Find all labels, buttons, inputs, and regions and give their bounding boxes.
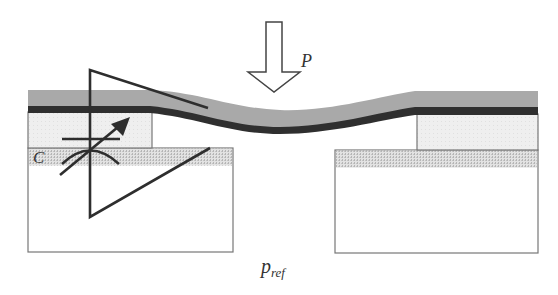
pressure-label: P — [300, 51, 312, 71]
left-substrate — [28, 148, 233, 252]
reference-pressure-symbol: p — [259, 255, 271, 278]
reference-pressure-subscript: ref — [271, 265, 287, 280]
reference-pressure-label: pref — [259, 255, 287, 280]
left-electrode-strip — [29, 149, 232, 166]
right-electrode-strip — [336, 151, 537, 168]
pressure-arrow-icon — [248, 22, 300, 92]
right-spacer — [417, 114, 538, 150]
right-substrate — [335, 150, 538, 253]
sensor-diagram: P C pref — [0, 0, 558, 295]
capacitance-label: C — [33, 148, 45, 167]
